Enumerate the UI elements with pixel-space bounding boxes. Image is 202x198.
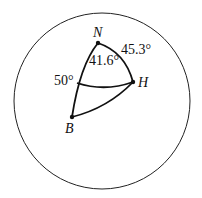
point-h — [131, 80, 135, 84]
label-n: N — [93, 26, 102, 40]
point-n — [96, 41, 100, 45]
label-h: H — [138, 76, 148, 90]
angle-n-label: 41.6° — [89, 54, 119, 68]
label-b: B — [65, 122, 74, 136]
latitude-label: 50° — [54, 74, 74, 88]
arc-latitude — [77, 82, 133, 87]
point-b — [70, 115, 74, 119]
arc-nh-label: 45.3° — [121, 43, 151, 57]
